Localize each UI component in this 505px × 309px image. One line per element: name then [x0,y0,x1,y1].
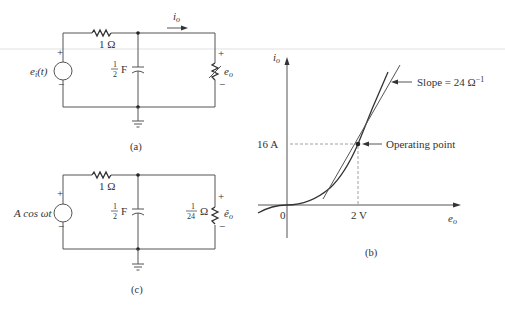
figure-canvas: 1 Ω + − ei(t) 1 2 F io + − eo (a) 1 Ω + … [0,0,505,309]
cap-den-a: 2 [113,70,117,79]
operating-point-label: Operating point [386,138,455,150]
x-axis-label: eo [448,212,457,226]
resistor-label-c: 1 Ω [99,180,115,192]
tangent-line [323,65,400,199]
circuit-a: 1 Ω + − ei(t) 1 2 F io + − eo (a) [30,10,233,153]
cap-num-c: 1 [113,202,117,211]
arrowhead-icon [181,26,188,31]
source-label-c: A cos ωt [13,207,52,219]
output-minus-a: − [219,78,225,90]
node-top-a [136,31,140,35]
plus-sign: + [57,46,63,58]
load-resistor-icon [212,207,218,224]
caption-a: (a) [130,141,142,153]
slope-annotation: Slope = 24 Ω−1 [417,75,484,88]
cap-unit-c: F [121,205,127,217]
source-label-a: ei(t) [30,65,48,79]
output-plus-a: + [218,47,224,59]
wire-loop-a [63,33,215,107]
load-unit-c: Ω [200,205,208,217]
plus-sign: + [57,187,63,199]
origin-label: 0 [280,209,286,221]
output-label-a: eo [224,65,233,79]
minus-sign: − [58,78,64,90]
cap-unit-a: F [121,63,127,75]
resistor-icon [92,30,111,36]
output-minus-c: − [219,220,225,232]
capacitor-icon [132,33,144,107]
output-plus-c: + [218,190,224,202]
ground-icon [132,107,144,127]
y-axis-label: io [273,51,280,65]
circuit-c: 1 Ω + − A cos ωt 1 2 F 1 24 Ω + − êo (c) [13,172,233,296]
load-num-c: 1 [191,202,195,211]
ground-icon [132,249,144,270]
caption-c: (c) [131,284,143,296]
load-den-c: 24 [187,212,195,221]
resistor-label-a: 1 Ω [99,38,115,50]
cap-den-c: 2 [113,212,117,221]
arrowhead-icon [362,142,369,147]
current-label-a: io [173,10,180,24]
operating-point-marker [356,142,361,147]
caption-b: (b) [365,247,378,259]
y-axis-arrow-icon [285,57,290,65]
iv-graph: io eo 0 16 A 2 V Slope = 24 Ω−1 Operatin… [257,51,484,259]
x-tick-label: 2 V [351,209,367,221]
cap-num-a: 1 [113,60,117,69]
node-top-c [136,173,140,177]
minus-sign: − [58,220,64,232]
output-label-c: êo [224,207,233,221]
capacitor-icon [132,175,144,249]
y-tick-label: 16 A [257,138,278,150]
resistor-icon [92,172,111,178]
x-axis-arrow-icon [453,203,461,208]
arrowhead-icon [391,80,398,85]
